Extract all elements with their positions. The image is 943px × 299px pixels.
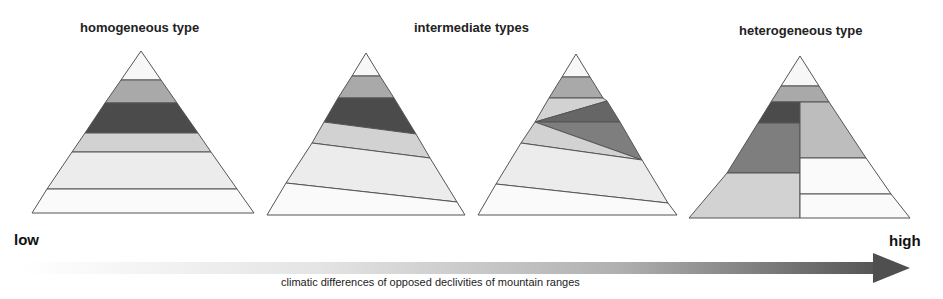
low-label: low xyxy=(14,231,39,248)
diagram-canvas xyxy=(0,0,943,299)
pyramid-intermediate-1 xyxy=(267,53,465,215)
axis-caption: climatic differences of opposed declivit… xyxy=(281,276,580,288)
pyramid-intermediate-2 xyxy=(478,54,677,215)
high-label: high xyxy=(889,232,921,249)
pyramid-homogeneous xyxy=(32,51,254,213)
pyramid-heterogeneous xyxy=(689,56,910,218)
